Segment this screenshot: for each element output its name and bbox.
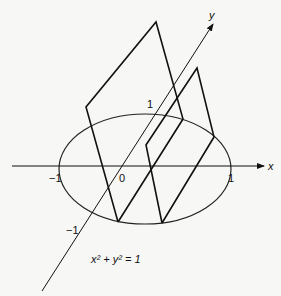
tick-y-pos: 1 [147, 98, 153, 110]
tick-origin: 0 [119, 172, 125, 184]
equation-label: x² + y² = 1 [90, 253, 141, 265]
tick-x-neg: −1 [49, 172, 62, 184]
cylinder-cross-section-diagram: y x 1 −1 0 1 −1 x² + y² = 1 [0, 0, 281, 296]
y-axis [42, 24, 213, 291]
small-square-cross-section [146, 68, 214, 223]
tick-y-neg: −1 [66, 224, 79, 236]
tick-x-pos: 1 [228, 172, 234, 184]
x-axis-label: x [267, 160, 274, 172]
y-axis-label: y [208, 9, 216, 21]
